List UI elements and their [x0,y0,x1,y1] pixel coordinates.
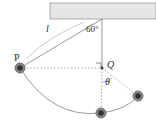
label-point-p: P [14,53,20,63]
swing-arc-path [20,68,138,114]
point-q-dot [101,67,104,70]
label-string-length: l [46,24,49,34]
pendulum-diagram-svg [0,0,156,127]
pendulum-figure: P Q l 60° θ [0,0,156,127]
upper-guide-arc [27,22,84,58]
ceiling-support-bar [50,3,156,19]
label-swing-angle: θ [105,77,110,87]
bob-right-inner [135,93,141,99]
right-angle-marker [96,63,101,68]
bob-bottom-inner [98,110,104,116]
vertical-dotted-lower [101,68,102,113]
label-point-q: Q [107,60,114,70]
bob-p-inner [17,65,23,71]
label-pivot-angle: 60° [86,25,99,34]
